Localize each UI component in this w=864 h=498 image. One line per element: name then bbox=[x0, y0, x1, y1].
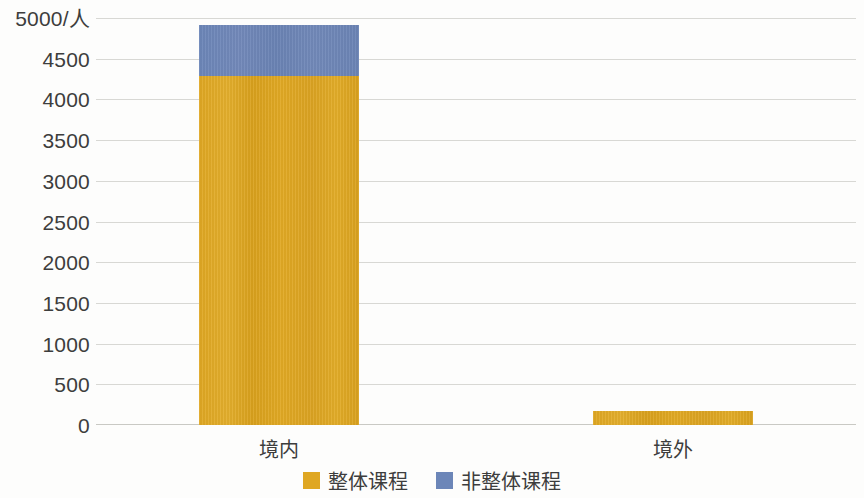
gridline bbox=[96, 18, 856, 19]
legend-item-non-overall-course[interactable]: 非整体课程 bbox=[436, 466, 561, 495]
y-tick-label: 1000 bbox=[42, 333, 90, 354]
y-tick-label: 4500 bbox=[42, 48, 90, 69]
legend-label: 非整体课程 bbox=[461, 466, 561, 495]
y-tick-label: 3000 bbox=[42, 170, 90, 191]
y-tick-label: 5000/人 bbox=[15, 8, 90, 29]
legend-swatch-icon bbox=[436, 472, 453, 489]
x-tick-label-overseas: 境外 bbox=[653, 434, 693, 463]
y-tick-label: 0 bbox=[78, 415, 90, 436]
legend-label: 整体课程 bbox=[328, 466, 408, 495]
bar-segment-overall-course-domestic[interactable] bbox=[199, 76, 359, 425]
y-tick-label: 500 bbox=[54, 374, 90, 395]
legend-item-overall-course[interactable]: 整体课程 bbox=[303, 466, 408, 495]
y-tick-label: 1500 bbox=[42, 292, 90, 313]
y-tick-label: 2000 bbox=[42, 252, 90, 273]
x-tick-label-domestic: 境内 bbox=[259, 434, 299, 463]
chart-legend: 整体课程 非整体课程 bbox=[0, 466, 864, 495]
bar-segment-overall-course-overseas[interactable] bbox=[593, 411, 753, 425]
x-axis: 境内 境外 bbox=[96, 430, 856, 464]
y-tick-label: 2500 bbox=[42, 211, 90, 232]
bar-chart: 5000/人 4500 4000 3500 3000 2500 2000 150… bbox=[0, 0, 864, 498]
legend-swatch-icon bbox=[303, 472, 320, 489]
y-axis: 5000/人 4500 4000 3500 3000 2500 2000 150… bbox=[0, 0, 96, 440]
y-tick-label: 4000 bbox=[42, 89, 90, 110]
plot-area bbox=[96, 18, 856, 425]
bar-segment-non-overall-course-domestic[interactable] bbox=[199, 25, 359, 76]
y-tick-label: 3500 bbox=[42, 130, 90, 151]
